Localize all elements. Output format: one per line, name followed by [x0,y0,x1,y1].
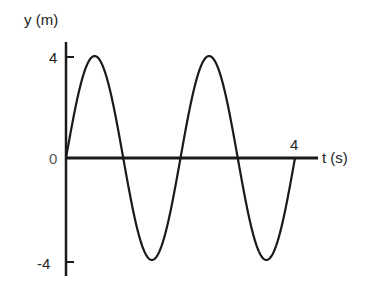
x-axis-label: t (s) [322,150,348,165]
y-tick-label-neg4: -4 [37,256,50,271]
wave-plot [0,0,380,281]
y-axis-label: y (m) [24,12,58,27]
y-tick-label-4: 4 [49,50,57,65]
x-tick-label-4: 4 [290,137,298,152]
y-tick-label-0: 0 [49,151,57,166]
